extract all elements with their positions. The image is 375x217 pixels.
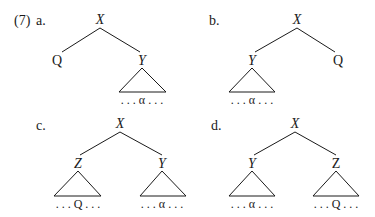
tree-d-left-yield: . . . α . . . (231, 197, 273, 211)
tree-c-right-node: Y (158, 156, 168, 171)
tree-a-right-edge (100, 28, 140, 52)
syntax-tree-figure: (7) a. X Q Y . . . α . . . b. X Y Q . . … (0, 0, 375, 217)
tree-c-left-triangle (54, 171, 101, 196)
tree-b: b. X Y Q . . . α . . . (209, 12, 343, 107)
tree-b-right-node: Q (333, 53, 343, 68)
tree-c-left-edge (80, 132, 120, 155)
tree-c-right-edge (120, 132, 162, 155)
tree-b-left-triangle (229, 68, 275, 92)
tree-c-left-yield: . . . Q . . . (56, 197, 101, 211)
tree-b-right-edge (297, 28, 335, 52)
tree-d-label: d. (211, 118, 222, 133)
tree-a-label: a. (36, 13, 46, 28)
tree-a-left-node: Q (52, 53, 62, 68)
tree-c-right-yield: . . . α . . . (141, 197, 183, 211)
tree-c-left-node: Z (74, 156, 82, 171)
tree-b-root: X (292, 12, 302, 27)
tree-d-right-node: Z (332, 156, 341, 171)
tree-b-label: b. (209, 13, 220, 28)
tree-d-left-edge (254, 132, 295, 155)
example-number: (7) (14, 13, 31, 29)
tree-b-left-yield: . . . α . . . (231, 93, 273, 107)
tree-c-root: X (115, 116, 125, 131)
tree-d-right-triangle (313, 171, 359, 196)
tree-d-right-edge (295, 132, 336, 155)
tree-d-root: X (290, 116, 300, 131)
tree-b-left-edge (255, 28, 297, 52)
tree-c-right-triangle (140, 171, 186, 196)
tree-d: d. X Y Z . . . α . . . . . . Q . . . (211, 116, 359, 211)
tree-d-left-node: Y (248, 156, 258, 171)
tree-d-right-yield: . . . Q . . . (314, 197, 359, 211)
tree-a-right-triangle (119, 68, 166, 92)
tree-b-left-node: Y (248, 53, 258, 68)
tree-c-label: c. (36, 118, 46, 133)
tree-c: c. X Z Y . . . Q . . . . . . α . . . (36, 116, 186, 211)
tree-a-right-node: Y (138, 53, 148, 68)
tree-a: a. X Q Y . . . α . . . (36, 12, 166, 107)
tree-a-left-edge (62, 28, 100, 52)
tree-a-root: X (95, 12, 105, 27)
tree-d-left-triangle (229, 171, 275, 196)
tree-a-right-yield: . . . α . . . (121, 93, 163, 107)
